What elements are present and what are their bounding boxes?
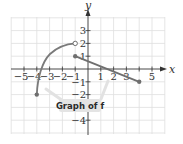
callout-label: Graph of f bbox=[56, 101, 104, 111]
y-tick-label: 3 bbox=[80, 25, 86, 36]
x-tick-label: 1 bbox=[98, 71, 104, 82]
graph-of-f-chart: x y −5 −4 −3 −2 −1 1 2 3 5 3 2 1 −1 −2 −… bbox=[0, 0, 183, 144]
open-dot-marker bbox=[73, 41, 77, 45]
y-tick-label: −4 bbox=[71, 115, 86, 126]
x-axis-label: x bbox=[169, 63, 176, 76]
y-axis-label: y bbox=[84, 0, 92, 12]
x-tick-label: 5 bbox=[149, 71, 155, 82]
y-tick-label: −2 bbox=[71, 89, 86, 100]
y-tick-label: 2 bbox=[80, 38, 86, 49]
closed-dot-marker bbox=[73, 54, 77, 58]
closed-dot-marker bbox=[137, 80, 141, 84]
y-tick-label: −1 bbox=[71, 77, 86, 88]
x-axis-arrow-icon bbox=[160, 67, 167, 72]
closed-dot-marker bbox=[35, 92, 39, 96]
